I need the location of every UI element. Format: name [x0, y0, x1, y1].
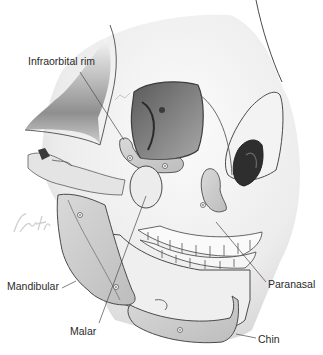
label-chin: Chin	[258, 333, 280, 345]
leader-mandibular	[62, 281, 76, 288]
label-malar: Malar	[70, 325, 96, 337]
artist-signature	[14, 214, 50, 232]
skull-illustration: Infraorbital rim Mandibular Malar Parana…	[0, 0, 323, 355]
skull-drawing	[0, 0, 323, 355]
label-mandibular: Mandibular	[7, 280, 59, 292]
label-infraorbital-rim: Infraorbital rim	[28, 55, 95, 67]
label-paranasal: Paranasal	[268, 278, 315, 290]
implant-malar	[130, 166, 162, 208]
